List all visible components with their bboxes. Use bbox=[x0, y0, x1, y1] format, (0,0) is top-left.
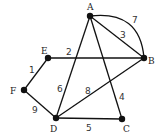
edge-a-d bbox=[56, 16, 90, 118]
node-label-d: D bbox=[50, 124, 57, 134]
edge-f-d bbox=[24, 90, 56, 118]
weight-label-d-c: 5 bbox=[86, 123, 92, 133]
node-b bbox=[141, 55, 147, 61]
node-f bbox=[21, 87, 27, 93]
weight-label-a-d: 6 bbox=[57, 84, 63, 94]
weight-label-d-b: 8 bbox=[85, 86, 91, 96]
edge-d-c bbox=[56, 118, 122, 119]
node-label-f: F bbox=[10, 86, 16, 96]
weight-label-a-b-arc: 7 bbox=[132, 15, 138, 25]
edge-e-f bbox=[24, 58, 48, 90]
weight-label-e-b: 2 bbox=[66, 47, 72, 57]
edge-a-c bbox=[90, 16, 122, 119]
weight-label-e-f: 1 bbox=[29, 65, 35, 75]
weight-label-a-b: 3 bbox=[120, 30, 126, 40]
node-d bbox=[53, 115, 59, 121]
node-a bbox=[87, 13, 93, 19]
edge-d-b bbox=[56, 58, 144, 118]
node-label-b: B bbox=[148, 56, 155, 66]
weighted-graph-diagram: 3 7 2 6 4 8 1 9 5 A B C D E F bbox=[0, 0, 166, 137]
node-label-a: A bbox=[86, 2, 94, 12]
edges bbox=[24, 15, 144, 119]
node-label-c: C bbox=[123, 124, 130, 134]
node-label-e: E bbox=[41, 46, 48, 56]
nodes bbox=[21, 13, 147, 122]
weight-label-f-d: 9 bbox=[32, 105, 38, 115]
node-c bbox=[119, 116, 125, 122]
weight-label-a-c: 4 bbox=[119, 92, 125, 102]
